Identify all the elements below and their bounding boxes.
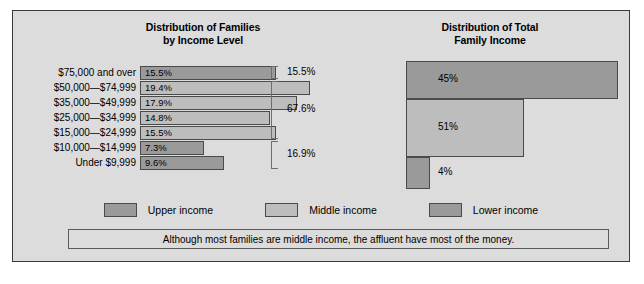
right-chart-panel: Distribution of Total Family Income 45%5… — [368, 11, 630, 196]
bracket-0 — [271, 66, 278, 79]
right-chart-title-line2: Family Income — [368, 34, 612, 47]
row-label: $10,000—$14,999 — [13, 141, 140, 155]
bracket-label: 67.6% — [287, 103, 315, 114]
bar-value-label: 7.3% — [145, 141, 167, 155]
bracket-label: 16.9% — [287, 148, 315, 159]
right-chart-title-line1: Distribution of Total — [368, 21, 612, 34]
left-chart-panel: Distribution of Families by Income Level… — [13, 11, 363, 196]
left-chart-title-line1: Distribution of Families — [43, 21, 363, 34]
figure-frame: Distribution of Families by Income Level… — [12, 10, 630, 262]
bar-value-label: 4% — [438, 166, 452, 177]
legend-item-middle: Middle income — [265, 203, 377, 217]
row-label: Under $9,999 — [13, 156, 140, 170]
left-chart-brackets: 15.5%67.6%16.9% — [271, 66, 363, 176]
bar-value-label: 14.8% — [145, 111, 172, 125]
legend-label: Upper income — [148, 204, 213, 216]
legend-item-upper: Upper income — [104, 203, 213, 217]
chart-legend: Upper incomeMiddle incomeLower income — [13, 199, 629, 221]
row-label: $35,000—$49,999 — [13, 96, 140, 110]
bracket-label: 15.5% — [287, 66, 315, 77]
bar-value-label: 17.9% — [145, 96, 172, 110]
bar-value-label: 19.4% — [145, 81, 172, 95]
right-chart-bars: 45%51%4% — [406, 61, 620, 186]
legend-item-lower: Lower income — [429, 203, 538, 217]
caption-box: Although most families are middle income… — [68, 229, 609, 249]
bar-value-label: 9.6% — [145, 156, 167, 170]
row-label: $50,000—$74,999 — [13, 81, 140, 95]
bar-value-label: 15.5% — [145, 126, 172, 140]
legend-swatch-upper — [104, 203, 137, 217]
bar-value-label: 15.5% — [145, 66, 172, 80]
bar-value-label: 51% — [438, 121, 458, 132]
caption-text: Although most families are middle income… — [163, 234, 514, 245]
legend-label: Middle income — [309, 204, 377, 216]
left-chart-title-line2: by Income Level — [43, 34, 363, 47]
left-chart-title: Distribution of Families by Income Level — [13, 21, 363, 46]
bracket-1 — [271, 81, 278, 139]
legend-label: Lower income — [473, 204, 538, 216]
bar-lower — [406, 157, 430, 189]
bar-value-label: 45% — [438, 73, 458, 84]
legend-swatch-middle — [265, 203, 298, 217]
row-label: $25,000—$34,999 — [13, 111, 140, 125]
row-label: $15,000—$24,999 — [13, 126, 140, 140]
bar-middle — [406, 99, 524, 157]
bracket-2 — [271, 141, 278, 169]
legend-swatch-lower — [429, 203, 462, 217]
row-label: $75,000 and over — [13, 66, 140, 80]
right-chart-title: Distribution of Total Family Income — [368, 21, 630, 46]
